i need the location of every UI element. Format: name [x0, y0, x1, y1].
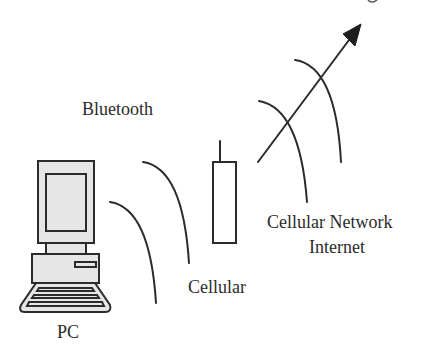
internet-label: Internet [309, 237, 365, 257]
desktop-computer-icon [20, 161, 110, 312]
bluetooth-wave-arc-outer [143, 162, 189, 263]
system-unit [32, 254, 99, 283]
drive-slot [75, 262, 96, 267]
phone-body [213, 162, 236, 243]
arrow-shaft [258, 36, 352, 162]
keyboard-row-3 [27, 302, 104, 306]
arrow-head [343, 24, 361, 46]
cellular-network-label: Cellular Network [267, 212, 392, 232]
pc-label: PC [57, 322, 79, 342]
cellular-label: Cellular [188, 277, 246, 297]
uplink-arrow-icon [258, 24, 361, 162]
cell-phone-icon [213, 141, 236, 243]
clipped-text-fragment [368, 0, 377, 2]
keyboard-row-2 [32, 295, 99, 298]
monitor-neck [46, 243, 86, 254]
diagram-canvas: PC Bluetooth Cellular Cellular Network I… [0, 0, 438, 357]
cellular-wave-arc-outer [295, 60, 341, 162]
bluetooth-label: Bluetooth [82, 99, 153, 119]
monitor-screen [46, 174, 86, 231]
keyboard-row-1 [37, 288, 94, 291]
bluetooth-wave-arc-inner [110, 202, 156, 303]
